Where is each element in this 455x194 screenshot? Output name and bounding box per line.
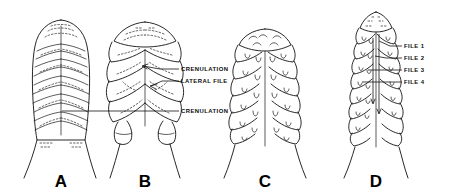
panel-caption-a: A: [55, 172, 67, 191]
panel-caption-d: D: [370, 172, 382, 191]
figure-canvas: CRENULATION LATERAL FILE CRENULATION FIL…: [0, 0, 455, 194]
annotation-file-3: FILE 3: [404, 67, 425, 73]
specimen-b: [106, 22, 183, 178]
annotation-file-1: FILE 1: [404, 43, 425, 49]
annotation-crenulation-lower: CRENULATION: [181, 108, 228, 114]
panel-captions: A B C D: [55, 172, 382, 191]
specimen-d: [344, 12, 408, 178]
annotation-file-2: FILE 2: [404, 55, 425, 61]
panel-caption-c: C: [259, 172, 271, 191]
figure-plate: CRENULATION LATERAL FILE CRENULATION FIL…: [0, 0, 455, 194]
annotation-lateral-file: LATERAL FILE: [181, 78, 228, 84]
annotation-file-4: FILE 4: [404, 79, 425, 85]
panel-caption-b: B: [139, 172, 151, 191]
annotation-crenulation-upper: CRENULATION: [181, 66, 228, 72]
specimen-a: [24, 20, 96, 178]
annotation-leaders: [62, 41, 402, 111]
specimen-c: [224, 29, 306, 178]
